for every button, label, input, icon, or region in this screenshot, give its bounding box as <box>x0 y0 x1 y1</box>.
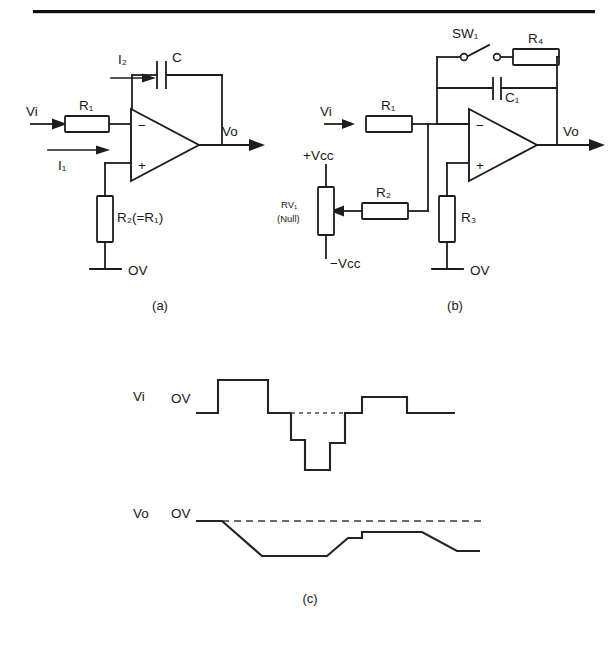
label-c1-b: C₁ <box>505 90 520 105</box>
caption-a: (a) <box>152 298 168 313</box>
opamp-inverting-sign-a: − <box>138 118 146 133</box>
waveforms-c: Vi OV Vo OV (c) <box>133 380 482 606</box>
circuit-a: Vi R₁ I₁ I₂ <box>26 50 265 313</box>
vi-input-arrow-b <box>325 119 355 129</box>
i1-current-arrow-a <box>48 146 110 155</box>
caption-b: (b) <box>447 298 463 313</box>
resistor-r1-b <box>366 116 412 132</box>
vi-waveform-trace <box>196 380 455 470</box>
label-vcc-pos-b: +Vcc <box>303 148 334 163</box>
resistor-r2-a <box>97 196 113 242</box>
label-zero-volts-vo: OV <box>171 506 191 521</box>
label-vi-waveform: Vi <box>133 389 145 404</box>
label-ground-b: OV <box>470 263 490 278</box>
label-vcc-neg-b: −Vcc <box>330 256 361 271</box>
resistor-r4-b <box>513 49 559 65</box>
top-divider-rule <box>33 10 595 13</box>
label-sw1-b: SW₁ <box>452 26 479 41</box>
label-zero-volts-vi: OV <box>171 391 191 406</box>
label-vo-a: Vo <box>222 124 238 139</box>
schematic-canvas: Vi R₁ I₁ I₂ <box>0 0 615 646</box>
caption-c: (c) <box>302 591 317 606</box>
opamp-noninverting-sign-a: + <box>138 158 146 173</box>
label-vi-b: Vi <box>320 104 332 119</box>
label-r3-b: R₃ <box>461 210 476 225</box>
label-rv1-b: RV₁ <box>281 199 297 210</box>
label-ground-a: OV <box>128 263 148 278</box>
figure-container: Vi R₁ I₁ I₂ <box>0 0 615 646</box>
label-rv1-note-b: (Null) <box>277 213 300 224</box>
label-r2-a: R₂(=R₁) <box>117 210 163 225</box>
label-vo-waveform: Vo <box>133 506 149 521</box>
label-i2-a: I₂ <box>118 52 127 67</box>
label-i1-a: I₁ <box>58 158 67 173</box>
vo-waveform-trace <box>196 521 480 556</box>
circuit-b: Vi R₁ SW₁ R₄ <box>277 26 605 313</box>
resistor-r3-b <box>439 196 455 242</box>
label-r2-b: R₂ <box>376 185 391 200</box>
label-r1-b: R₁ <box>381 98 396 113</box>
label-c-a: C <box>172 50 182 65</box>
potentiometer-rv1-b <box>318 187 334 235</box>
label-vo-b: Vo <box>563 124 579 139</box>
resistor-r1-a <box>65 116 109 132</box>
label-r4-b: R₄ <box>528 31 543 46</box>
capacitor-c-a <box>157 62 166 88</box>
vo-arrow-b <box>589 139 605 151</box>
label-vi-a: Vi <box>26 104 38 119</box>
label-r1-a: R₁ <box>79 98 94 113</box>
sw1-terminal-left-b <box>461 54 468 61</box>
opamp-inverting-sign-b: − <box>476 118 484 133</box>
resistor-r2-b <box>362 203 408 219</box>
sw1-terminal-right-b <box>494 54 501 61</box>
vo-arrow-a <box>249 139 265 151</box>
capacitor-c1-b <box>493 78 501 99</box>
sw1-blade-b <box>468 45 489 56</box>
opamp-noninverting-sign-b: + <box>476 158 484 173</box>
